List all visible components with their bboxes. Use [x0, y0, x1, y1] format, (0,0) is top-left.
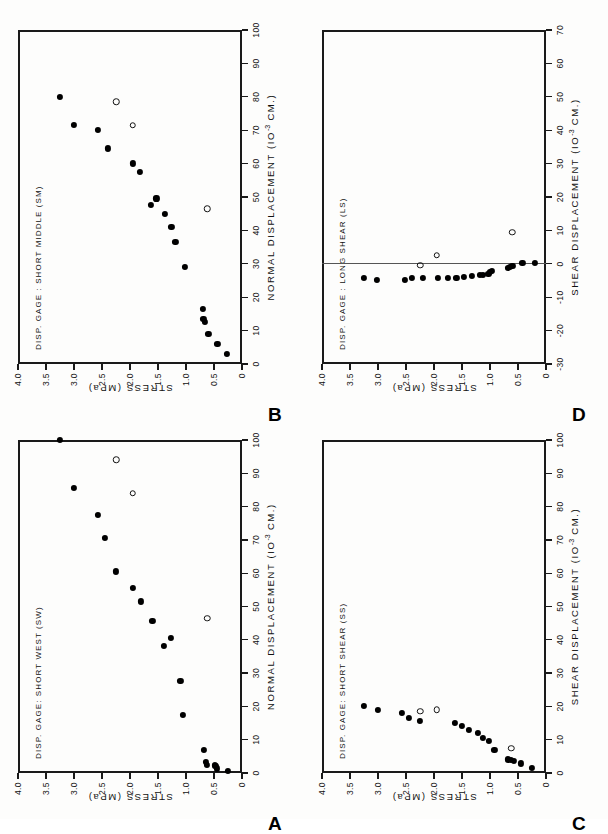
x-tick	[546, 196, 552, 197]
y-tick	[45, 364, 46, 370]
x-tick-label: 80	[251, 92, 261, 102]
y-tick	[433, 773, 434, 779]
y-tick-label: 0.5	[513, 373, 523, 386]
y-tick	[213, 364, 214, 370]
y-tick-label: 0.5	[209, 373, 219, 386]
y-tick	[517, 773, 518, 779]
data-point-open	[434, 252, 441, 259]
data-point-open	[113, 99, 120, 106]
y-tick	[185, 364, 186, 370]
x-tick-label: 50	[555, 601, 565, 611]
x-tick-label: 100	[251, 22, 261, 37]
x-tick	[546, 539, 552, 540]
x-tick	[242, 96, 248, 97]
panel-D-rotated-canvas: -30-20-100102030405060704.03.53.02.52.01…	[304, 0, 608, 410]
panel-letter: C	[572, 813, 586, 834]
y-tick	[241, 364, 242, 370]
x-tick	[242, 363, 248, 364]
y-tick-label: 3.5	[41, 373, 51, 386]
x-tick-label: 10	[251, 735, 261, 745]
y-tick	[377, 364, 378, 370]
y-tick-label: 4.0	[317, 373, 327, 386]
x-tick-label: 60	[555, 58, 565, 68]
y-tick	[101, 773, 102, 779]
data-point-open	[417, 262, 424, 269]
x-tick	[546, 506, 552, 507]
y-tick	[433, 364, 434, 370]
x-tick	[546, 606, 552, 607]
data-point-open	[204, 205, 211, 212]
x-tick-label: 0	[251, 770, 261, 775]
plot-frame	[322, 30, 546, 364]
x-tick-label: 30	[555, 668, 565, 678]
x-tick	[242, 539, 248, 540]
y-tick	[349, 773, 350, 779]
x-tick	[242, 772, 248, 773]
data-point-filled	[225, 768, 231, 774]
x-tick	[242, 473, 248, 474]
panel-C: 01020304050607080901004.03.53.02.52.01.5…	[304, 410, 608, 819]
y-tick-label: 3.0	[373, 373, 383, 386]
data-point-open	[113, 457, 120, 464]
y-tick	[157, 773, 158, 779]
x-tick-label: 0	[555, 261, 565, 266]
x-tick-label: 50	[555, 92, 565, 102]
y-tick-label: 1.0	[485, 373, 495, 386]
x-tick	[242, 439, 248, 440]
x-axis-title: SHEAR DISPLACEMENT (IO-3 CM.)	[568, 98, 580, 296]
y-tick	[489, 773, 490, 779]
y-tick-label: 3.5	[345, 373, 355, 386]
y-tick	[461, 364, 462, 370]
panel-A: 01020304050607080901004.03.53.02.52.01.5…	[0, 410, 304, 819]
y-tick	[321, 364, 322, 370]
plot-frame	[322, 440, 546, 773]
x-tick-label: 10	[251, 325, 261, 335]
x-tick-label: 30	[251, 259, 261, 269]
y-tick-label: 4.0	[317, 782, 327, 795]
x-axis-title: NORMAL DISPLACEMENT (IO-3 CM.)	[264, 503, 276, 710]
x-tick-label: 10	[555, 225, 565, 235]
y-tick-label: 0	[541, 782, 551, 787]
x-tick-label: 30	[555, 158, 565, 168]
panel-A-plot: 01020304050607080901004.03.53.02.52.01.5…	[0, 410, 304, 819]
y-tick-label: 3.5	[345, 782, 355, 795]
y-tick	[73, 364, 74, 370]
x-tick-label: 50	[251, 601, 261, 611]
x-tick	[546, 96, 552, 97]
panel-C-rotated-canvas: 01020304050607080901004.03.53.02.52.01.5…	[304, 410, 608, 819]
x-axis-title: NORMAL DISPLACEMENT (IO-3 CM.)	[264, 94, 276, 301]
x-tick	[546, 573, 552, 574]
x-tick	[546, 297, 552, 298]
x-tick-label: 0	[555, 770, 565, 775]
y-tick	[17, 364, 18, 370]
x-tick-label: 40	[251, 635, 261, 645]
x-tick-label: 90	[555, 468, 565, 478]
x-tick	[546, 263, 552, 264]
x-tick	[242, 29, 248, 30]
data-point-open	[204, 615, 211, 622]
gage-label: DISP. GAGE : SHORT MIDDLE (SM)	[34, 185, 43, 350]
x-tick-label: 40	[555, 635, 565, 645]
x-tick	[242, 130, 248, 131]
x-tick	[242, 739, 248, 740]
data-point-open	[434, 706, 441, 713]
y-axis-title: STRESS (MPa)	[87, 383, 173, 394]
x-axis-units-exponent: -3	[568, 539, 575, 545]
y-tick	[213, 773, 214, 779]
x-tick	[242, 573, 248, 574]
x-tick-label: 80	[555, 501, 565, 511]
y-tick	[405, 773, 406, 779]
y-tick	[101, 364, 102, 370]
gage-label: DISP. GAGE: SHORT SHEAR (SS)	[338, 603, 347, 759]
x-tick-label: 100	[251, 432, 261, 447]
x-tick	[546, 772, 552, 773]
panel-C-plot: 01020304050607080901004.03.53.02.52.01.5…	[304, 410, 608, 819]
y-tick	[545, 364, 546, 370]
y-tick	[349, 364, 350, 370]
x-tick	[546, 330, 552, 331]
x-tick	[546, 639, 552, 640]
y-tick	[157, 364, 158, 370]
x-tick	[242, 196, 248, 197]
x-axis-units-exponent: -3	[264, 534, 271, 540]
